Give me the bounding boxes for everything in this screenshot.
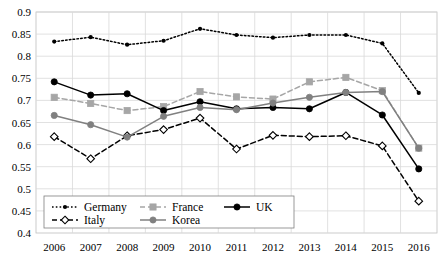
- legend-marker-uk: [234, 204, 240, 210]
- data-point-uk-2006: [51, 79, 57, 85]
- y-axis-tick-label: 0.6: [17, 139, 31, 151]
- y-axis-tick-label: 0.65: [12, 117, 32, 129]
- x-axis-tick-label: 2015: [371, 241, 394, 253]
- data-point-france-2007: [88, 100, 94, 106]
- data-point-france-2011: [233, 94, 239, 100]
- data-point-france-2010: [197, 88, 203, 94]
- data-point-korea-2016: [416, 145, 422, 151]
- y-axis-tick-label: 0.8: [17, 50, 31, 62]
- legend-marker-germany: [63, 205, 67, 209]
- data-point-germany-2007: [89, 35, 93, 39]
- y-axis-tick-label: 0.45: [12, 205, 32, 217]
- data-point-france-2013: [306, 79, 312, 85]
- data-point-korea-2007: [88, 122, 94, 128]
- legend-label-italy: Italy: [84, 214, 105, 227]
- data-point-france-2008: [124, 107, 130, 113]
- data-point-germany-2008: [125, 43, 129, 47]
- data-point-uk-2009: [160, 107, 166, 113]
- data-point-germany-2010: [198, 27, 202, 31]
- data-point-korea-2015: [379, 88, 385, 94]
- chart-canvas: 0.40.450.50.550.60.650.70.750.80.850.920…: [0, 0, 446, 272]
- y-axis-tick-label: 0.9: [17, 6, 31, 18]
- x-axis-tick-label: 2011: [226, 241, 248, 253]
- x-axis-tick-label: 2014: [335, 241, 358, 253]
- data-point-uk-2013: [306, 106, 312, 112]
- legend-marker-france: [150, 204, 156, 210]
- x-axis-tick-label: 2006: [43, 241, 66, 253]
- data-point-korea-2008: [124, 134, 130, 140]
- legend-label-france: France: [172, 201, 203, 213]
- data-point-uk-2015: [379, 112, 385, 118]
- data-point-uk-2016: [416, 166, 422, 172]
- y-axis-tick-label: 0.4: [17, 227, 31, 239]
- data-point-france-2006: [51, 94, 57, 100]
- data-point-korea-2009: [160, 113, 166, 119]
- data-point-germany-2009: [161, 39, 165, 43]
- data-point-germany-2015: [380, 41, 384, 45]
- data-point-korea-2006: [51, 112, 57, 118]
- legend-label-uk: UK: [256, 201, 273, 213]
- y-axis-tick-label: 0.5: [17, 183, 31, 195]
- data-point-germany-2013: [307, 33, 311, 37]
- data-point-germany-2006: [52, 40, 56, 44]
- data-point-germany-2011: [234, 33, 238, 37]
- data-point-korea-2010: [197, 104, 203, 110]
- data-point-uk-2008: [124, 91, 130, 97]
- y-axis-tick-label: 0.7: [17, 94, 31, 106]
- x-axis-tick-label: 2009: [153, 241, 176, 253]
- y-axis-tick-label: 0.55: [12, 161, 32, 173]
- data-point-uk-2007: [88, 92, 94, 98]
- line-chart: 0.40.450.50.550.60.650.70.750.80.850.920…: [0, 0, 446, 272]
- y-axis-tick-label: 0.75: [12, 72, 32, 84]
- data-point-korea-2014: [343, 89, 349, 95]
- x-axis-tick-label: 2010: [189, 241, 212, 253]
- x-axis-tick-label: 2007: [80, 241, 103, 253]
- data-point-germany-2014: [344, 33, 348, 37]
- x-axis-tick-label: 2016: [408, 241, 431, 253]
- data-point-germany-2012: [271, 36, 275, 40]
- data-point-korea-2013: [306, 94, 312, 100]
- data-point-france-2014: [343, 74, 349, 80]
- legend-label-korea: Korea: [172, 214, 200, 226]
- y-axis-tick-label: 0.85: [12, 28, 32, 40]
- legend-label-germany: Germany: [84, 201, 127, 214]
- x-axis-tick-label: 2008: [116, 241, 139, 253]
- data-point-korea-2011: [233, 107, 239, 113]
- data-point-uk-2010: [197, 99, 203, 105]
- data-point-korea-2012: [270, 100, 276, 106]
- x-axis-tick-label: 2012: [262, 241, 284, 253]
- x-axis-tick-label: 2013: [298, 241, 321, 253]
- data-point-germany-2016: [417, 91, 421, 95]
- legend-marker-korea: [150, 217, 156, 223]
